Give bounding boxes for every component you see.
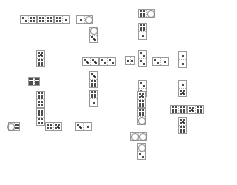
pip-icon [25,20,27,22]
pip-icon [94,39,96,41]
pip-icon [94,85,96,87]
pip-icon [38,97,40,99]
domino-tile[interactable] [125,56,135,65]
pip-icon [17,127,19,129]
pip-icon [175,111,177,113]
pip-icon [41,64,43,66]
domino-tile[interactable] [37,15,54,24]
pip-icon [157,62,159,64]
pip-icon [180,131,182,133]
domino-half [188,106,196,113]
domino-tile[interactable] [54,15,70,24]
pip-icon [33,20,35,22]
domino-tile[interactable] [36,108,45,126]
domino-half [131,133,139,140]
pip-icon [112,62,114,64]
domino-tile[interactable] [187,105,204,114]
pip-icon [180,122,182,124]
domino-half [139,10,147,17]
domino-tile[interactable] [137,143,146,160]
domino-tile[interactable] [36,50,45,67]
pip-icon [39,17,41,19]
domino-tile[interactable] [82,57,99,66]
domino-half [100,58,108,65]
domino-half [161,58,168,65]
domino-tile[interactable] [89,27,98,43]
domino-tile[interactable] [138,9,155,18]
pip-icon [140,15,142,17]
domino-tile[interactable] [36,91,45,108]
pip-icon [38,118,40,120]
domino-half [46,123,54,130]
domino-half [54,123,61,130]
pip-icon [189,110,191,112]
domino-tile[interactable] [20,15,37,24]
pip-icon [59,17,61,19]
domino-half [138,144,145,152]
pip-icon [41,55,43,57]
domino-tile[interactable] [28,77,40,86]
domino-tile[interactable] [89,71,98,88]
pip-icon [101,59,103,61]
domino-tile[interactable] [89,90,98,107]
domino-half [139,81,146,89]
pip-icon [180,93,182,95]
domino-tile[interactable] [45,122,62,131]
pip-icon [38,122,40,124]
blank-circle-icon [131,133,139,141]
domino-tile[interactable] [178,117,187,134]
domino-tile[interactable] [178,51,187,68]
domino-half [76,123,84,130]
domino-tile[interactable] [152,57,169,66]
domino-half [46,16,53,23]
domino-half [153,58,161,65]
domino-tile[interactable] [170,105,187,114]
domino-half [138,117,145,124]
pip-icon [87,126,89,128]
domino-half [171,106,179,113]
pip-icon [42,17,44,19]
pip-icon [143,85,145,87]
domino-half [196,106,203,113]
pip-icon [95,62,97,64]
pip-icon [50,127,52,129]
domino-half [90,28,97,36]
domino-tile[interactable] [75,122,92,131]
pip-icon [38,55,40,57]
pip-icon [140,52,142,54]
pip-icon [33,17,35,19]
domino-half [85,16,92,23]
domino-half [37,51,44,59]
pip-icon [38,114,40,116]
domino-tile[interactable] [138,50,147,67]
pip-icon [142,156,144,158]
pip-icon [139,153,141,155]
domino-half [138,109,145,117]
domino-half [55,16,63,23]
domino-half [138,100,145,107]
pip-icon [47,124,49,126]
pip-icon [142,96,144,98]
domino-half [29,16,36,23]
domino-tile[interactable] [137,91,146,108]
domino-tile[interactable] [138,23,147,40]
domino-tile[interactable] [99,57,116,66]
pip-icon [42,20,44,22]
domino-half [90,99,97,106]
domino-tile[interactable] [137,108,146,125]
pip-icon [154,59,156,61]
pip-icon [139,114,141,116]
domino-half [90,80,97,87]
domino-half [139,133,146,140]
domino-tile[interactable] [76,15,93,24]
pip-icon [50,17,52,19]
domino-tile[interactable] [8,122,20,131]
pip-icon [65,19,67,21]
pip-icon [197,111,199,113]
domino-tile[interactable] [130,132,147,141]
domino-half [37,109,44,118]
domino-half [179,106,186,113]
pip-icon [164,61,166,63]
pip-icon [109,59,111,61]
domino-tile[interactable] [178,80,187,97]
